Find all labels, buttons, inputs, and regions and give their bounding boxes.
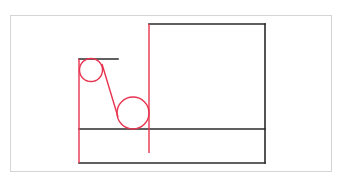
pulley-diagram: [0, 0, 341, 177]
large-pulley-icon: [117, 97, 149, 129]
belt-slant-line: [102, 64, 118, 117]
structure-lines: [79, 24, 265, 163]
pulleys: [80, 59, 150, 130]
small-pulley-icon: [80, 59, 103, 82]
belt-lines: [79, 24, 149, 163]
